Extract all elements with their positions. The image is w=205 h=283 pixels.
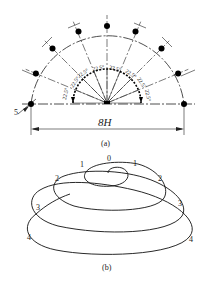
spiral-label-left: 2 (55, 174, 59, 183)
angle-label: 22.5° (92, 64, 105, 72)
angle-label: 22.5° (76, 67, 89, 79)
spiral-label-right: 3 (178, 199, 182, 208)
spiral-labels: 0 1 1 2 2 3 3 4 4 (27, 154, 193, 244)
caption-a: (a) (101, 139, 110, 148)
diagram-canvas: 22.5° 22.5° 22.5° 22.5° 22.5° 22.5° 22.5… (0, 0, 205, 283)
angle-label: 22.5° (144, 89, 152, 102)
spiral-label-left: 4 (27, 233, 31, 242)
angle-label: 22.5° (109, 64, 122, 72)
caption-b: (b) (102, 263, 112, 272)
spiral-label-top: 0 (107, 154, 111, 163)
dimension-label: 8H (98, 116, 113, 128)
spiral-label-left: 3 (36, 203, 40, 212)
spiral-label-right: 4 (189, 235, 193, 244)
spiral-label-left: 1 (80, 160, 84, 169)
spiral-label-right: 1 (133, 159, 137, 168)
angle-label: 22.5° (124, 68, 137, 80)
angle-label: 22.5° (61, 87, 69, 100)
angle-label: 22.5° (136, 76, 148, 89)
spiral (27, 162, 192, 254)
spiral-label-right: 2 (158, 174, 162, 183)
offset-label: 5 (14, 108, 18, 117)
